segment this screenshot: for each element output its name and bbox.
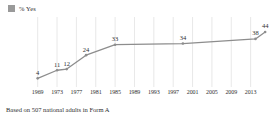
x-tick-label: 1973 bbox=[51, 88, 63, 96]
data-point-label: 11 bbox=[54, 61, 60, 68]
data-point-label: 4 bbox=[36, 69, 40, 76]
chart-footnote: Based on 507 national adults in Form A bbox=[6, 105, 109, 114]
x-axis: 1969197319771981198519891993199720012005… bbox=[0, 88, 280, 98]
x-tick-label: 1969 bbox=[32, 88, 44, 96]
plot-svg: 411122433343844 bbox=[0, 17, 280, 87]
legend-label: % Yes bbox=[19, 5, 36, 12]
x-tick-label: 2013 bbox=[245, 88, 257, 96]
data-point bbox=[114, 43, 117, 46]
data-point bbox=[65, 68, 68, 71]
x-tick-label: 1993 bbox=[148, 88, 160, 96]
data-point-label: 24 bbox=[83, 46, 90, 53]
data-point-label: 12 bbox=[63, 60, 70, 67]
legend-swatch-icon bbox=[8, 5, 15, 12]
plot-area: 411122433343844 bbox=[0, 17, 280, 87]
data-point bbox=[36, 77, 39, 80]
x-tick-label: 2005 bbox=[206, 88, 218, 96]
line-chart: % Yes 411122433343844 196919731977198119… bbox=[0, 0, 280, 119]
x-tick-label: 1997 bbox=[167, 88, 179, 96]
data-point bbox=[85, 54, 88, 57]
point-labels-group: 411122433343844 bbox=[36, 22, 269, 75]
series-group bbox=[36, 31, 266, 80]
x-tick-label: 1981 bbox=[90, 88, 102, 96]
data-point bbox=[264, 31, 267, 34]
data-point bbox=[182, 42, 185, 45]
data-point bbox=[56, 69, 59, 72]
data-point-label: 38 bbox=[252, 29, 259, 36]
data-point-label: 44 bbox=[262, 22, 269, 29]
data-point bbox=[254, 38, 257, 41]
chart-legend: % Yes bbox=[8, 4, 36, 13]
gridlines bbox=[38, 17, 251, 87]
x-tick-label: 1985 bbox=[109, 88, 121, 96]
x-tick-label: 2009 bbox=[225, 88, 237, 96]
x-tick-label: 1989 bbox=[129, 88, 141, 96]
x-tick-label: 2001 bbox=[187, 88, 199, 96]
data-point-label: 33 bbox=[112, 35, 119, 42]
x-tick-label: 1977 bbox=[71, 88, 83, 96]
data-point-label: 34 bbox=[180, 34, 187, 41]
